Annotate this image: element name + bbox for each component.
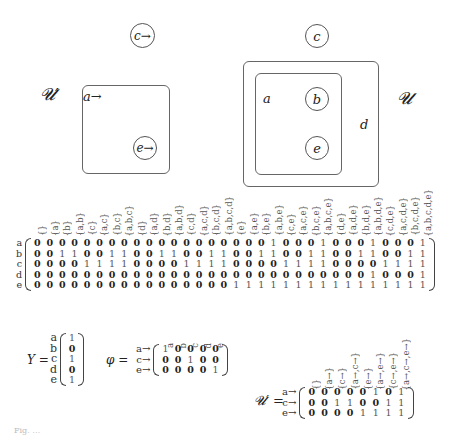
main-matrix-cells: 0000000000000000000100010001000100110011… [31, 238, 429, 291]
matrix-cell: 1 [392, 280, 404, 291]
column-header: {b} [61, 220, 73, 236]
matrix-cell: 0 [342, 259, 354, 270]
matrix-cell: 0 [318, 387, 331, 398]
column-header: {b,c} [111, 212, 123, 236]
column-header: {a} [48, 220, 60, 236]
matrix-cell: 0 [56, 259, 68, 270]
matrix-cell: 0 [292, 238, 304, 249]
matrix-cell: 0 [330, 259, 342, 270]
matrix-cell: 1 [106, 259, 118, 270]
phi-label: φ = [106, 353, 128, 367]
matrix-cell: 1 [417, 238, 429, 249]
column-header: {c→,e→} [387, 352, 400, 390]
matrix-cell: 0 [342, 238, 354, 249]
matrix-cell: 0 [106, 280, 118, 291]
matrix-cell: 1 [369, 408, 382, 419]
matrix-cell: 1 [193, 259, 205, 270]
matrix-cell: 1 [292, 280, 304, 291]
column-header: {c,e} [285, 213, 297, 236]
node-d: d [360, 117, 368, 132]
matrix-cell: 0 [305, 408, 318, 419]
right-paren [78, 333, 84, 386]
matrix-cell: 1 [267, 280, 279, 291]
matrix-cell: 0 [243, 238, 255, 249]
node-e: e [305, 136, 329, 160]
column-header: {b,d} [160, 212, 172, 236]
matrix-cell: 0 [159, 365, 172, 376]
row-label: e→ [282, 408, 296, 419]
matrix-cell: 0 [56, 238, 68, 249]
column-header: {a,d} [148, 212, 160, 236]
row-label: e [50, 375, 57, 386]
matrix-cell: 1 [209, 365, 222, 376]
matrix-cell: 0 [143, 259, 155, 270]
matrix-row: 00001111000011110000111100001111 [31, 259, 429, 270]
matrix-row: 1 [66, 375, 78, 386]
matrix-cell: 0 [118, 280, 130, 291]
y-vector-label: Y = [27, 353, 49, 367]
set-label-u-prime: 𝓤′ [40, 84, 59, 104]
matrix-cell: 1 [417, 280, 429, 291]
matrix-cell: 1 [280, 280, 292, 291]
column-header: {a→,c→} [348, 352, 361, 390]
matrix-cell: 0 [197, 344, 210, 355]
matrix-cell: 0 [305, 387, 318, 398]
column-header: {a,e} [247, 212, 259, 236]
y-vector-row-labels: abcde [50, 333, 60, 386]
matrix-cell: 0 [131, 280, 143, 291]
right-paren [408, 387, 414, 419]
matrix-row: 10000 [159, 344, 222, 355]
matrix-cell: 0 [31, 280, 43, 291]
matrix-cell: 1 [382, 408, 395, 419]
matrix-row: 00001 [159, 365, 222, 376]
node-c: c [305, 24, 329, 48]
matrix-cell: 0 [218, 238, 230, 249]
matrix-cell: 0 [44, 259, 56, 270]
matrix-cell: 0 [155, 280, 167, 291]
column-header: {e} [235, 220, 247, 236]
u-prime-matrix-cells: 000001010011001100001111 [305, 387, 407, 419]
column-header: {a,c,e} [297, 205, 309, 236]
column-header: {a,b,d,e} [372, 196, 384, 236]
matrix-cell: 1 [267, 238, 279, 249]
column-header: {a,b,c,d,e} [422, 189, 434, 236]
matrix-cell: 0 [131, 259, 143, 270]
matrix-row: 00000000000000001111111111111111 [31, 280, 429, 291]
matrix-cell: 0 [344, 408, 357, 419]
matrix-cell: 1 [317, 280, 329, 291]
matrix-cell: 1 [180, 259, 192, 270]
y-vector-cells: 10101 [66, 333, 78, 386]
matrix-cell: 1 [305, 259, 317, 270]
matrix-cell: 1 [317, 238, 329, 249]
matrix-cell: 1 [417, 259, 429, 270]
matrix-cell: 0 [230, 238, 242, 249]
matrix-cell: 0 [243, 259, 255, 270]
matrix-cell: 0 [330, 238, 342, 249]
matrix-cell: 0 [184, 344, 197, 355]
matrix-cell: 0 [56, 280, 68, 291]
matrix-cell: 0 [44, 280, 56, 291]
matrix-cell: 0 [354, 238, 366, 249]
matrix-cell: 0 [93, 280, 105, 291]
matrix-cell: 1 [292, 259, 304, 270]
node-c-arrow: c→ [130, 23, 155, 48]
column-header: {a→,e→} [374, 352, 387, 390]
matrix-cell: 0 [172, 344, 185, 355]
matrix-cell: 1 [66, 375, 78, 386]
matrix-cell: 0 [193, 238, 205, 249]
matrix-row: 00000000000000000001000100010001 [31, 238, 429, 249]
matrix-cell: 0 [93, 238, 105, 249]
matrix-cell: 0 [68, 259, 80, 270]
row-label: e [16, 280, 22, 291]
row-label: c [16, 259, 22, 270]
node-b: b [305, 87, 329, 111]
column-header: {a,b,c,e} [322, 197, 334, 236]
matrix-cell: 1 [66, 333, 78, 344]
matrix-cell: 0 [354, 259, 366, 270]
column-header: {b,c,d,e} [409, 196, 421, 236]
right-paren [222, 344, 228, 376]
matrix-cell: 1 [243, 280, 255, 291]
matrix-cell: 0 [255, 238, 267, 249]
matrix-row: 1 [66, 333, 78, 344]
matrix-cell: 0 [31, 259, 43, 270]
